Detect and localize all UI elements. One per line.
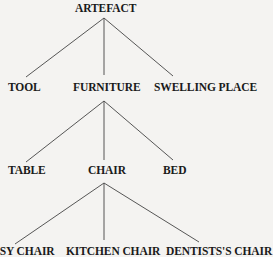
node-easy-chair: EASY CHAIR [0,245,54,257]
edge-furniture-table [26,101,104,162]
node-chair: CHAIR [88,164,126,176]
edge-artefact-swelling-place [104,18,173,76]
node-dentists-chair: DENTISTS'S CHAIR [166,245,272,257]
edge-chair-easy-chair [15,183,104,244]
node-tool: TOOL [8,81,41,93]
node-furniture: FURNITURE [73,81,140,93]
node-bed: BED [163,164,186,176]
node-artefact: ARTEFACT [75,2,136,14]
edge-chair-dentists-chair [104,183,199,242]
node-swelling-place: SWELLING PLACE [154,81,257,93]
node-table: TABLE [8,164,46,176]
edge-furniture-bed [104,101,173,160]
node-kitchen-chair: KITCHEN CHAIR [66,245,160,257]
edge-artefact-tool [26,18,104,77]
